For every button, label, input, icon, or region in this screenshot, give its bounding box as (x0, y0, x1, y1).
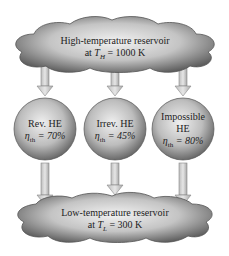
engine-impossible-name: Impossible (152, 111, 214, 123)
engine-rev-label: Rev. HE ηth = 70% (14, 118, 76, 146)
engine-irrev-name: Irrev. HE (84, 118, 146, 130)
engine-rev-efficiency: ηth = 70% (14, 130, 76, 146)
low-temperature-reservoir-label: Low-temperature reservoir at TL = 300 K (15, 207, 215, 235)
engine-irrev-efficiency: ηth = 45% (84, 130, 146, 146)
engine-rev-name: Rev. HE (14, 118, 76, 130)
engine-impossible-label: Impossible HE ηth = 80% (152, 111, 214, 151)
arrow-irrev-to-bottom (107, 163, 123, 195)
arrow-top-to-rev (37, 66, 53, 96)
engine-impossible-efficiency: ηth = 80% (152, 135, 214, 151)
low-temperature-reservoir-title: Low-temperature reservoir (15, 207, 215, 219)
low-temperature-reservoir-temp: at TL = 300 K (15, 219, 215, 235)
high-temperature-reservoir-title: High-temperature reservoir (15, 35, 215, 47)
high-temperature-reservoir-label: High-temperature reservoir at TH = 1000 … (15, 35, 215, 63)
engine-impossible-name-2: HE (152, 123, 214, 135)
engine-irrev-label: Irrev. HE ηth = 45% (84, 118, 146, 146)
high-temperature-reservoir-temp: at TH = 1000 K (15, 47, 215, 63)
